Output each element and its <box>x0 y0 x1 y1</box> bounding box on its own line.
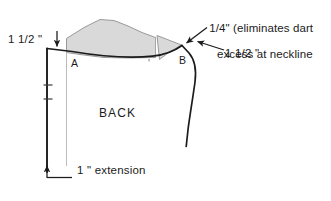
pattern-diagram: 1 1/2 " 1/4" (eliminates dart excess at … <box>0 0 331 201</box>
left-dimension-label: 1 1/2 " <box>8 33 42 46</box>
notch-mark-group <box>44 85 53 99</box>
back-piece-label: BACK <box>99 107 136 120</box>
dart-note-line-1: 1/4" (eliminates dart <box>209 22 313 34</box>
point-a-label: A <box>71 58 78 70</box>
point-a-prime-label: ' <box>148 58 150 70</box>
point-b-label: B <box>179 55 186 67</box>
extension-label: 1 " extension <box>77 164 146 177</box>
right-dimension-label: 1 1/2 " <box>225 47 259 60</box>
